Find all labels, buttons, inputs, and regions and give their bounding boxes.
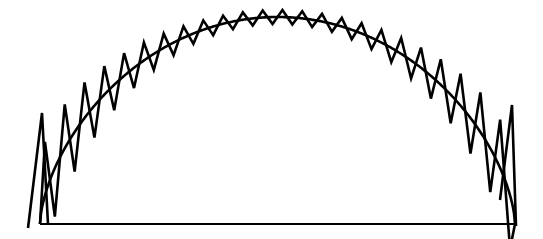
arc-sawtooth-chart (0, 0, 543, 239)
figure-container (0, 0, 543, 239)
